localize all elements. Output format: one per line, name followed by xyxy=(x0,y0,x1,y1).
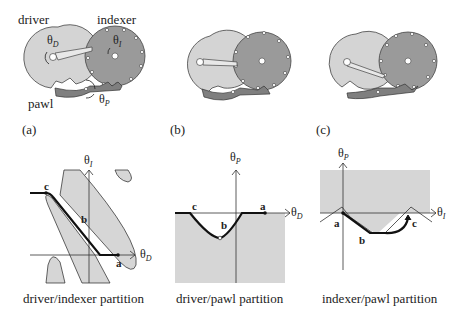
plot3-y-axis-label: θP xyxy=(338,146,349,162)
plot2-x-axis-label: θD xyxy=(291,205,303,221)
plot1-point-a: a xyxy=(116,257,122,269)
plot3-point-a: a xyxy=(334,217,340,229)
plot3-point-b: b xyxy=(359,234,365,246)
plot2-point-b: b xyxy=(221,219,227,231)
mechanism-c xyxy=(329,31,437,98)
theta-d-label: θD xyxy=(47,33,59,49)
driver-label: driver xyxy=(18,12,49,28)
theta-p-label: θP xyxy=(99,92,110,108)
theta-i-label: θI xyxy=(113,33,121,49)
plot3-caption: indexer/pawl partition xyxy=(322,291,437,307)
plot1-point-c: c xyxy=(44,180,49,192)
plot1-y-axis-label: θI xyxy=(84,153,92,169)
pawl-label: pawl xyxy=(28,96,53,112)
plot-driver-pawl xyxy=(175,170,290,283)
plot2-point-c: c xyxy=(192,200,197,212)
mechanism-a xyxy=(24,25,145,98)
plot3-point-c: c xyxy=(412,217,417,229)
plot1-caption: driver/indexer partition xyxy=(23,291,144,307)
panel-label-a: (a) xyxy=(22,122,36,138)
panel-label-c: (c) xyxy=(316,122,330,138)
plot2-y-axis-label: θP xyxy=(230,150,241,166)
plot1-x-axis-label: θD xyxy=(140,247,152,263)
mechanism-b xyxy=(187,30,291,100)
indexer-label: indexer xyxy=(97,12,136,28)
plot2-point-a: a xyxy=(260,200,266,212)
panel-label-b: (b) xyxy=(170,122,185,138)
plot1-point-b: b xyxy=(81,213,87,225)
plot3-x-axis-label: θI xyxy=(437,205,445,221)
plot2-caption: driver/pawl partition xyxy=(176,291,283,307)
